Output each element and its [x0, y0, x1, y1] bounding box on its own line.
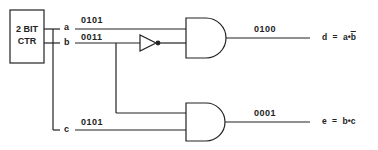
equation-d: d = a•b — [322, 32, 356, 42]
eq-e-sign: = — [332, 116, 337, 126]
counter-label-line1: 2 BIT — [10, 23, 44, 35]
eq-e-lhs: e — [322, 116, 327, 126]
pin-b: b — [64, 37, 70, 47]
eq-d-sign: = — [333, 32, 338, 42]
inverter-gate — [140, 35, 156, 51]
eq-e-term2: c — [351, 116, 356, 126]
and-gate-1 — [186, 18, 226, 58]
output-e-bits: 0001 — [254, 108, 276, 118]
eq-d-term2-negated: b — [351, 32, 356, 42]
circuit-wires — [0, 0, 378, 150]
logic-circuit-diagram: 2 BIT CTR a b c 0101 0011 0101 0100 0001… — [0, 0, 378, 150]
eq-d-lhs: d — [322, 32, 327, 42]
signal-c-bits: 0101 — [81, 117, 103, 127]
output-d-bits: 0100 — [254, 24, 276, 34]
pin-c: c — [64, 124, 69, 134]
counter-label-line2: CTR — [10, 35, 44, 47]
equation-e: e = b•c — [322, 116, 355, 126]
and-gate-2 — [186, 103, 225, 141]
signal-a-bits: 0101 — [81, 15, 103, 25]
pin-a: a — [64, 22, 69, 32]
counter-label: 2 BIT CTR — [10, 23, 44, 47]
signal-b-bits: 0011 — [81, 32, 103, 42]
